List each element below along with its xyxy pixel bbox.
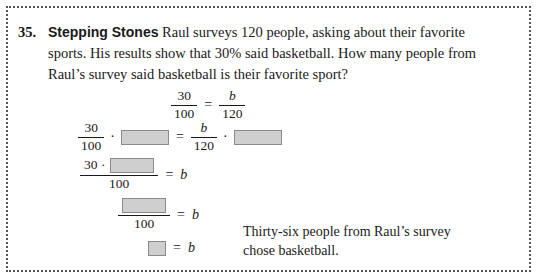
equation-line-4: 100 = b xyxy=(118,198,199,232)
equation-line-2: 30 100 · = b 120 · xyxy=(78,120,282,154)
multiplication-dot: · xyxy=(110,129,115,145)
variable-b: b xyxy=(192,207,199,223)
fraction-30-times-blank-over-100: 30 · 100 xyxy=(80,158,158,192)
problem-number: 35. xyxy=(18,24,36,41)
problem-statement: Stepping Stones Raul surveys 120 people,… xyxy=(48,22,503,85)
numerator: 30 · xyxy=(80,158,158,175)
blank-answer-box[interactable] xyxy=(148,241,166,256)
equals-sign: = xyxy=(177,207,185,223)
equals-sign: = xyxy=(173,240,181,256)
equation-line-5: = b xyxy=(148,231,195,265)
fraction-30-over-100: 30 100 xyxy=(78,121,104,152)
variable-b: b xyxy=(188,240,195,256)
answer-line-1: Thirty-six people from Raul’s survey xyxy=(243,222,513,241)
equation-line-1: 30 100 = b 120 xyxy=(171,88,245,122)
problem-content: 35. Stepping Stones Raul surveys 120 peo… xyxy=(0,0,537,280)
fraction-b-over-120: b 120 xyxy=(219,89,245,120)
numerator: b xyxy=(198,121,211,136)
denominator: 120 xyxy=(191,137,217,153)
numerator: b xyxy=(226,89,239,104)
blank-answer-box[interactable] xyxy=(110,158,154,173)
blank-answer-box[interactable] xyxy=(234,130,282,145)
blank-answer-box[interactable] xyxy=(122,198,166,213)
denominator: 100 xyxy=(105,176,133,192)
numerator-prefix: 30 · xyxy=(84,158,105,173)
denominator: 120 xyxy=(219,105,245,121)
denominator: 100 xyxy=(130,216,158,232)
worksheet-page: 35. Stepping Stones Raul surveys 120 peo… xyxy=(0,0,537,280)
answer-line-2: chose basketball. xyxy=(243,241,513,260)
equals-sign: = xyxy=(204,97,212,113)
equals-sign: = xyxy=(176,129,184,145)
problem-label: Stepping Stones xyxy=(48,24,158,40)
denominator: 100 xyxy=(171,105,197,121)
denominator: 100 xyxy=(78,137,104,153)
numerator xyxy=(118,198,170,215)
multiplication-dot: · xyxy=(223,129,228,145)
equals-sign: = xyxy=(165,167,173,183)
equation-line-3: 30 · 100 = b xyxy=(80,158,187,192)
fraction-b-over-120: b 120 xyxy=(191,121,217,152)
blank-answer-box[interactable] xyxy=(121,130,169,145)
numerator: 30 xyxy=(81,121,101,136)
fraction-blank-over-100: 100 xyxy=(118,198,170,232)
fraction-30-over-100: 30 100 xyxy=(171,89,197,120)
answer-statement: Thirty-six people from Raul’s survey cho… xyxy=(243,222,513,260)
variable-b: b xyxy=(180,167,187,183)
numerator: 30 xyxy=(174,89,194,104)
